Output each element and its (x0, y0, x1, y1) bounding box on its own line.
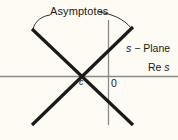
s-plane-label-text: − Plane (134, 42, 170, 54)
real-axis-label-symbol: s (164, 61, 169, 73)
s-plane-label-symbol: s (126, 42, 131, 54)
asymptotes-label: Asymptotes (50, 6, 108, 17)
centroid-label: c (79, 78, 84, 87)
real-axis-label: Re s (148, 62, 170, 73)
real-axis-label-text: Re (148, 61, 161, 73)
origin-label: 0 (111, 78, 117, 89)
asymptotes-s-plane-figure: Asymptotes s − Plane Re s c 0 (0, 0, 178, 140)
s-plane-label: s − Plane (126, 43, 170, 54)
asymptotes-leader-left (33, 15, 50, 29)
